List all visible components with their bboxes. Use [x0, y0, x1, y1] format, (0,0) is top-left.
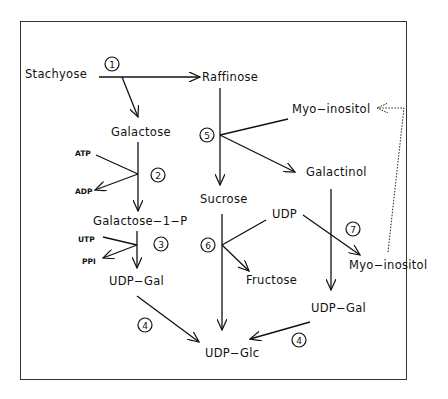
- line-udp-in-6: [222, 220, 266, 245]
- svg-text:2: 2: [155, 171, 161, 181]
- svg-text:6: 6: [205, 241, 211, 251]
- svg-text:4: 4: [142, 321, 148, 331]
- pathway-diagram: Stachyose 1 Galactose ATP ADP 2 Galactos…: [0, 0, 448, 399]
- line-atp-in: [96, 155, 138, 174]
- node-myo-inositol-bottom: Myo−inositol: [349, 258, 427, 272]
- enzyme-5: 5: [200, 128, 214, 142]
- node-galactose-1-p: Galactose−1−P: [93, 214, 188, 228]
- cofactor-ppi: PPI: [82, 257, 96, 266]
- enzyme-6: 6: [201, 238, 215, 252]
- node-myo-inositol-top: Myo−inositol: [292, 102, 370, 116]
- enzyme-4-left: 4: [138, 318, 152, 332]
- node-udp-gal-left: UDP−Gal: [109, 274, 164, 288]
- enzyme-7: 7: [346, 222, 360, 236]
- arrow-adp-out: [95, 174, 138, 190]
- arrow-stachyose-galactose: [122, 77, 138, 117]
- node-udp: UDP: [272, 207, 297, 221]
- enzyme-4-right: 4: [292, 333, 306, 347]
- svg-text:7: 7: [350, 225, 356, 235]
- line-utp-in: [103, 237, 137, 245]
- node-galactinol: Galactinol: [306, 165, 367, 179]
- arrow-ppi-out: [103, 245, 137, 258]
- svg-text:3: 3: [158, 240, 164, 250]
- svg-text:1: 1: [109, 60, 115, 70]
- node-fructose: Fructose: [246, 273, 297, 287]
- node-galactose: Galactose: [111, 125, 171, 139]
- svg-text:5: 5: [204, 131, 210, 141]
- node-stachyose: Stachyose: [25, 67, 87, 81]
- enzyme-1: 1: [105, 57, 119, 71]
- cofactor-utp: UTP: [78, 235, 95, 244]
- cofactor-atp: ATP: [75, 149, 91, 158]
- line-myoinositol-in: [220, 119, 288, 135]
- arrow-to-fructose: [222, 245, 249, 271]
- node-sucrose: Sucrose: [200, 192, 248, 206]
- enzyme-2: 2: [151, 168, 165, 182]
- arrow-to-galactinol: [220, 135, 295, 172]
- svg-text:4: 4: [296, 336, 302, 346]
- cofactor-adp: ADP: [75, 187, 93, 196]
- node-raffinose: Raffinose: [202, 70, 258, 84]
- enzyme-3: 3: [154, 237, 168, 251]
- dotted-arrow-recycle-myo-inositol: [377, 108, 404, 252]
- node-udp-glc: UDP−Glc: [205, 346, 259, 360]
- node-udp-gal-right: UDP−Gal: [311, 301, 366, 315]
